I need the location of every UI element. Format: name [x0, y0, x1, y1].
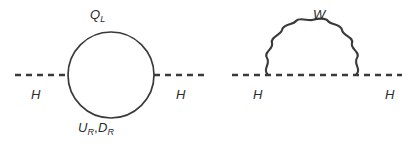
label-top-fermion-subscript: L [100, 14, 105, 24]
label-top-fermion-base: Q [90, 7, 100, 22]
w-loop-graphic [208, 0, 416, 149]
label-top-fermion: QL [90, 8, 105, 21]
label-w-boson: W [313, 8, 325, 21]
label-w-boson-base: W [313, 7, 325, 22]
label-higgs-incoming-left: H [31, 88, 41, 101]
label-higgs-outgoing-right: H [385, 88, 395, 101]
label-bottom-fermions: UR,DR [78, 121, 114, 134]
quark-loop-circle [68, 32, 154, 118]
label-bottom-second-subscript: R [108, 127, 115, 137]
diagram-fermion-loop: QL UR,DR H H [0, 0, 208, 149]
diagram-w-loop: W H H [208, 0, 416, 149]
label-bottom-first-subscript: R [88, 127, 95, 137]
label-bottom-first-base: U [78, 120, 88, 135]
label-bottom-second-base: D [98, 120, 108, 135]
feynman-diagram-figure: QL UR,DR H H W H H [0, 0, 416, 149]
label-higgs-outgoing-left: H [176, 88, 186, 101]
w-boson-wavy-arc [266, 19, 358, 75]
label-higgs-incoming-right: H [253, 88, 263, 101]
